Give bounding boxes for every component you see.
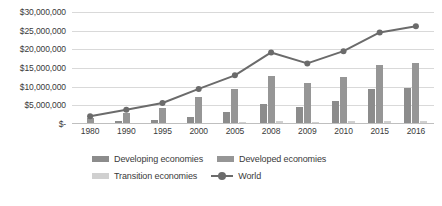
y-axis-tick-label: $5,000,000: [0, 100, 66, 110]
plot-area: [72, 12, 434, 124]
bar-group: [362, 12, 398, 124]
x-axis-tick-label: 2016: [398, 126, 434, 142]
x-axis-tick-label: 1995: [144, 126, 180, 142]
bar-group: [398, 12, 434, 124]
bar-developed: [340, 77, 347, 124]
bar-group: [217, 12, 253, 124]
legend-label-developing: Developing economies: [114, 154, 203, 164]
bar-developed: [195, 97, 202, 124]
legend-swatch-icon-developed: [217, 156, 234, 162]
x-axis-tick-label: 2010: [325, 126, 361, 142]
legend-label-transition: Transition economies: [114, 171, 197, 181]
bar-developing: [296, 107, 303, 124]
legend-item-developing-economies[interactable]: Developing economies: [92, 154, 217, 164]
legend-item-transition-economies[interactable]: Transition economies: [92, 171, 211, 181]
bar-developed: [412, 63, 419, 124]
legend-line-marker-icon-world: [211, 171, 233, 180]
bar-group: [289, 12, 325, 124]
x-axis-tick-label: 1980: [72, 126, 108, 142]
x-axis-tick-label: 2009: [289, 126, 325, 142]
x-axis-baseline: [72, 123, 434, 124]
bar-group: [72, 12, 108, 124]
chart-container: $-$5,000,000$10,000,000$15,000,000$20,00…: [0, 0, 442, 206]
bar-developed: [159, 108, 166, 124]
bar-developing: [368, 89, 375, 124]
bar-group: [181, 12, 217, 124]
x-axis-tick-label: 1990: [108, 126, 144, 142]
legend-swatch-icon-transition: [92, 173, 109, 179]
y-axis-tick-label: $-: [0, 119, 66, 129]
bar-developed: [376, 65, 383, 124]
x-axis-tick-label: 2015: [362, 126, 398, 142]
chart-legend: Developing economies Developed economies…: [92, 150, 422, 184]
x-axis-tick-label: 2008: [253, 126, 289, 142]
legend-row-2: Transition economies World: [92, 167, 422, 184]
x-axis-labels: 1980199019952000200520082009201020152016: [72, 126, 434, 142]
x-axis-tick-label: 2005: [217, 126, 253, 142]
legend-row-1: Developing economies Developed economies: [92, 150, 422, 167]
legend-swatch-icon-developing: [92, 156, 109, 162]
legend-label-developed: Developed economies: [239, 154, 326, 164]
y-axis-tick-label: $10,000,000: [0, 82, 66, 92]
y-axis-tick-label: $25,000,000: [0, 26, 66, 36]
bar-group: [108, 12, 144, 124]
bar-developed: [231, 89, 238, 124]
bar-developed: [304, 83, 311, 124]
bar-developing: [404, 88, 411, 124]
y-axis-tick-label: $20,000,000: [0, 44, 66, 54]
y-axis-tick-label: $15,000,000: [0, 63, 66, 73]
legend-item-developed-economies[interactable]: Developed economies: [217, 154, 340, 164]
bar-group: [325, 12, 361, 124]
legend-item-world[interactable]: World: [211, 171, 275, 181]
bar-developed: [268, 76, 275, 124]
bar-group: [253, 12, 289, 124]
bar-developing: [332, 101, 339, 124]
bar-group: [144, 12, 180, 124]
y-axis-tick-label: $30,000,000: [0, 7, 66, 17]
x-axis-tick-label: 2000: [181, 126, 217, 142]
bar-series-layer: [72, 12, 434, 124]
legend-label-world: World: [238, 171, 261, 181]
bar-developing: [260, 104, 267, 124]
